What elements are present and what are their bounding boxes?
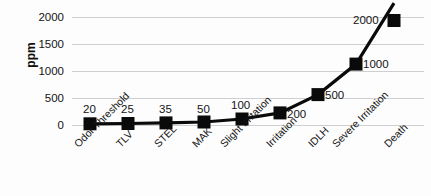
data-label-death: 2000 [353, 15, 379, 26]
data-point-marker [388, 14, 401, 27]
y-axis-tick-1000: 1000 [22, 66, 64, 77]
data-label-idlh: 500 [325, 90, 344, 101]
data-point-marker [122, 117, 135, 130]
y-axis-tick-2000: 2000 [22, 12, 64, 23]
data-label-severe-irritation: 1000 [363, 59, 389, 70]
data-point-marker [274, 106, 287, 119]
data-point-marker [350, 58, 363, 71]
data-label-mak: 50 [197, 104, 210, 115]
y-axis-tick-1500: 1500 [22, 39, 64, 50]
chart-container: ppm 2000 1500 1000 500 0 20 25 35 50 100… [0, 0, 431, 196]
data-label-stel: 35 [159, 104, 172, 115]
data-label-odor-threshold: 20 [83, 104, 96, 115]
y-axis-tick-0: 0 [22, 120, 64, 131]
x-axis-label-tlv: TLV [114, 129, 135, 150]
y-axis-tick-500: 500 [22, 93, 64, 104]
data-point-marker [312, 88, 325, 101]
